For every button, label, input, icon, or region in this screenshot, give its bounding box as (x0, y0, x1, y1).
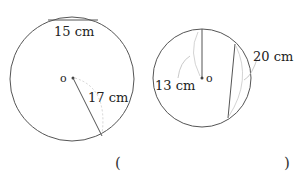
answer-close-paren: ) (284, 154, 290, 172)
right-center-label: o (206, 72, 213, 85)
right-radius-label: 13 cm (155, 78, 195, 93)
right-radius-arc-guide (193, 32, 200, 76)
left-radius-label: 17 cm (88, 90, 128, 105)
answer-open-paren: ( (115, 154, 121, 172)
left-radius-arc-guide (75, 78, 103, 134)
right-chord-label: 20 cm (253, 49, 293, 64)
right-center-dot (201, 77, 204, 80)
answer-blank[interactable] (126, 154, 281, 174)
left-chord-label: 15 cm (54, 24, 94, 39)
left-circle-group: 15 cm o 17 cm (10, 17, 134, 141)
right-circle-group: o 13 cm 20 cm (153, 29, 293, 127)
right-radius-pointer (178, 56, 190, 78)
left-radius (73, 78, 102, 136)
left-center-label: o (60, 72, 67, 85)
